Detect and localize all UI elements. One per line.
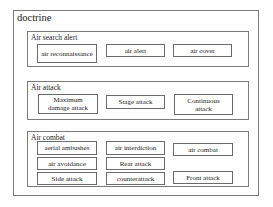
node-air-cover: air cover: [173, 44, 232, 57]
node-air-interdiction: air interdiction: [106, 141, 165, 155]
node-aerial-ambushes: aerial ambushes: [37, 141, 97, 155]
node-stage-attack: Stage attack: [106, 95, 165, 109]
node-side-attack: Side attack: [37, 172, 97, 185]
node-maximum-damage-attack: Maximum damage attack: [38, 94, 98, 114]
node-front-attack: Front attack: [173, 171, 233, 184]
section-label: Air search alert: [31, 33, 77, 42]
node-air-combat: air combat: [173, 143, 233, 156]
doctrine-title: doctrine: [17, 12, 51, 24]
node-continuous-attack: Continuous attack: [174, 94, 233, 115]
node-air-alert: air alert: [106, 44, 165, 57]
node-rear-attack: Rear attack: [106, 157, 165, 170]
node-air-reconnaissance: air reconnaissance: [37, 44, 97, 63]
node-air-avoidance: air avoidance: [37, 157, 97, 170]
node-counterattack: counterattack: [106, 172, 165, 185]
section-label: Air attack: [31, 83, 61, 92]
